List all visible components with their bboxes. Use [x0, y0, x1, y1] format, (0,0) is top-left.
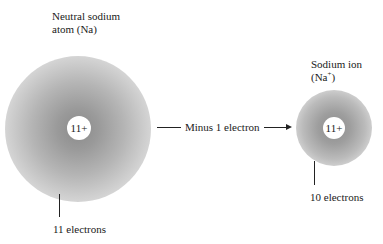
ion-nucleus-charge: 11+ [326, 122, 343, 134]
ion-title-line1: Sodium ion [311, 58, 362, 71]
transition-arrow: Minus 1 electron [157, 119, 292, 135]
neutral-atom-title-line2: atom (Na) [52, 23, 120, 36]
neutral-atom-pointer-line [59, 194, 60, 217]
neutral-atom-electron-label: 11 electrons [53, 223, 106, 236]
arrow-line-left [157, 127, 181, 128]
arrow-head-icon [286, 124, 292, 130]
arrow-line-right [264, 127, 286, 128]
neutral-atom-nucleus-charge: 11+ [71, 122, 88, 134]
ion-nucleus: 11+ [323, 117, 345, 139]
ion-title-line2: (Na+) [311, 71, 362, 84]
ion-pointer-line [314, 161, 315, 185]
neutral-atom-title: Neutral sodium atom (Na) [52, 10, 120, 36]
ion-formula-close: ) [331, 71, 335, 83]
transition-label: Minus 1 electron [185, 121, 260, 133]
neutral-atom-title-line1: Neutral sodium [52, 10, 120, 23]
neutral-atom-nucleus: 11+ [67, 116, 91, 140]
ion-formula: (Na [311, 71, 328, 83]
ion-electron-label: 10 electrons [310, 191, 363, 204]
ion-title: Sodium ion (Na+) [311, 58, 362, 84]
